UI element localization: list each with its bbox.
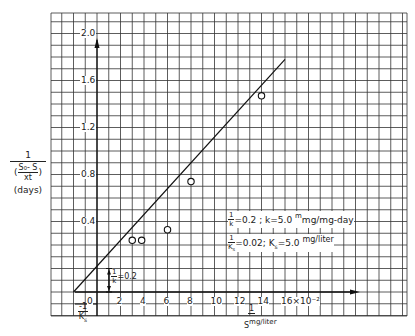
x-tick-label: 4 [140, 297, 146, 306]
x-tick-label: 12 [234, 297, 245, 306]
result2-units: mg/liter [302, 235, 333, 244]
y-label-denominator: ( S₀- S xt ) [4, 163, 52, 182]
y-label-numerator: 1 [10, 150, 46, 162]
x-tick-label: 8 [187, 297, 193, 306]
y-label-den-top: S₀- S [18, 163, 39, 173]
x-label-units: Smg/liter [244, 318, 277, 330]
y-axis-label: 1 ( S₀- S xt ) (days) [4, 150, 52, 195]
x-tick-label: 10 [211, 297, 222, 306]
grid-lines [51, 13, 407, 316]
data-point-marker [188, 178, 194, 184]
x-intercept-sub: s [84, 316, 87, 323]
result-annotation-k: 1 k =0.2 ; k=5.0 mmg/mg-day [228, 211, 354, 228]
y-tick-label: 0.4 [80, 217, 96, 226]
x-axis-arrow-icon [350, 290, 360, 295]
result2-text: =0.02; K [235, 238, 274, 248]
data-point-marker [258, 93, 264, 99]
data-point-marker [129, 237, 135, 243]
chart-canvas [0, 0, 415, 336]
x-tick-label: 16×10⁻² [281, 297, 320, 306]
x-label-num: 1 [248, 304, 255, 314]
result1-text: =0.2 ; k=5.0 [234, 215, 292, 225]
intercept-value: =0.2 [117, 272, 136, 281]
x-tick-label: 14 [258, 297, 269, 306]
data-point-marker [164, 227, 170, 233]
y-tick-label: 0.8 [80, 170, 96, 179]
x-tick-label: 6 [164, 297, 170, 306]
x-intercept-annotation: -1 Ks [78, 302, 88, 323]
y-tick-label: 1.6 [80, 76, 96, 85]
result-annotation-ks: 1 Ks =0.02; Ks=5.0 mg/liter [228, 234, 334, 252]
y-label-den-bottom: xt [18, 173, 39, 182]
result2-value: =5.0 [278, 238, 300, 248]
x-tick-label: 2 [117, 297, 123, 306]
result1-units-sup: m [295, 212, 302, 220]
y-label-units: (days) [4, 185, 52, 195]
result1-units: mg/mg-day [302, 215, 354, 225]
x-intercept-num: -1 [78, 302, 88, 312]
data-point-marker [138, 237, 144, 243]
x-label-units-text: mg/liter [249, 318, 276, 326]
y-tick-label: 1.2 [80, 123, 96, 132]
y-tick-label: 2.0 [80, 29, 96, 38]
intercept-annotation: 1 k =0.2 [111, 268, 137, 285]
y-axis-arrow-icon [95, 38, 100, 48]
